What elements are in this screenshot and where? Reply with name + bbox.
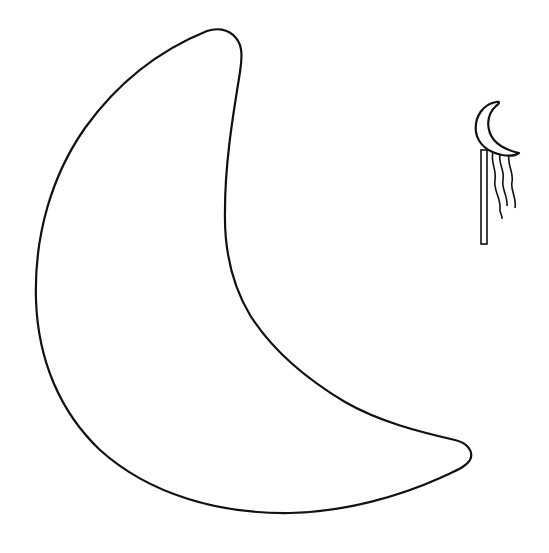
drawing-canvas <box>0 0 549 553</box>
stick <box>481 150 487 244</box>
streamer-2 <box>500 154 507 206</box>
moon-on-stick-icon <box>476 102 519 244</box>
coloring-page: Crescent moon coloring template <box>0 0 549 553</box>
small-crescent-moon <box>476 102 519 156</box>
streamer-3 <box>509 155 516 208</box>
large-crescent-moon-outline <box>36 29 471 513</box>
